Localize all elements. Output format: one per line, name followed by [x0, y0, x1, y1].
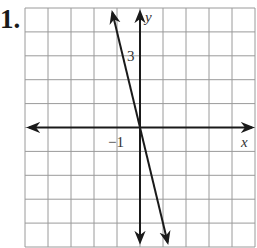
coordinate-plane: x y −13 [0, 0, 257, 248]
y-axis-label: y [143, 9, 152, 25]
x-axis-label: x [240, 134, 248, 150]
x-tick-label: −1 [108, 134, 124, 150]
y-tick-label: 3 [127, 48, 135, 64]
